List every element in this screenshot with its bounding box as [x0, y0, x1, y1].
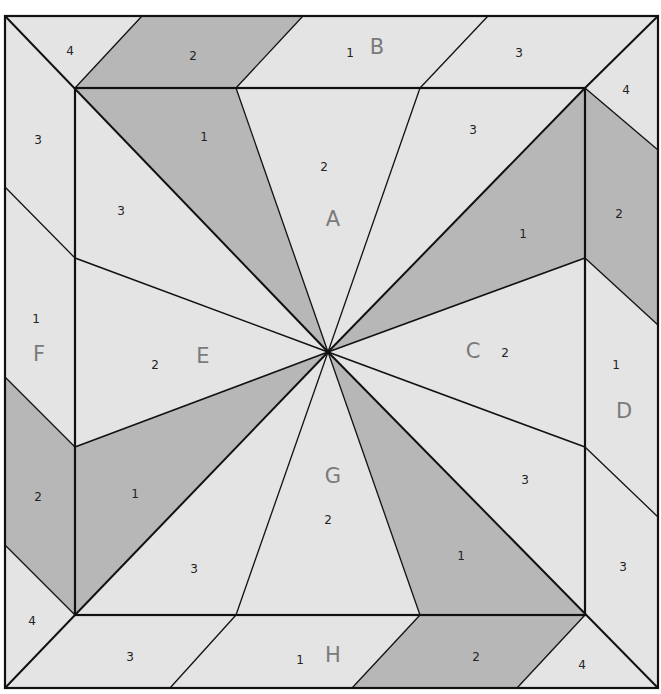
- piece-number-B1: 1: [346, 46, 354, 60]
- piece-number-G3: 3: [190, 562, 198, 576]
- piece-number-H2: 2: [472, 650, 480, 664]
- piece-number-B3: 3: [515, 46, 523, 60]
- piece-number-H3: 3: [126, 650, 134, 664]
- piece-number-E3: 3: [117, 204, 125, 218]
- piece-number-C1: 1: [519, 227, 527, 241]
- quilt-block-diagram: A B C D E F G H 1 2 3 1 2 3 4 1 2 3 1 2 …: [0, 0, 661, 694]
- section-label-B: B: [370, 35, 384, 59]
- piece-number-G2: 2: [324, 513, 332, 527]
- piece-number-G1: 1: [457, 549, 465, 563]
- piece-number-F1: 1: [32, 312, 40, 326]
- piece-number-F3: 3: [34, 133, 42, 147]
- piece-number-D1: 1: [612, 358, 620, 372]
- piece-number-D3: 3: [619, 560, 627, 574]
- piece-number-C3: 3: [521, 473, 529, 487]
- piece-number-H1: 1: [296, 653, 304, 667]
- piece-number-D2: 2: [615, 207, 623, 221]
- piece-number-A1: 1: [200, 130, 208, 144]
- piece-number-E2: 2: [151, 358, 159, 372]
- piece-number-A2: 2: [320, 160, 328, 174]
- section-label-F: F: [33, 342, 45, 366]
- section-label-E: E: [196, 344, 209, 368]
- section-label-D: D: [616, 399, 632, 423]
- piece-number-F2: 2: [34, 490, 42, 504]
- section-label-A: A: [326, 207, 341, 231]
- piece-number-F4: 4: [28, 614, 36, 628]
- piece-number-A3: 3: [469, 123, 477, 137]
- piece-number-D4: 4: [622, 83, 630, 97]
- piece-number-B2: 2: [189, 49, 197, 63]
- section-label-G: G: [325, 464, 341, 488]
- section-label-C: C: [466, 339, 481, 363]
- piece-number-H4: 4: [578, 658, 586, 672]
- piece-number-E1: 1: [131, 487, 139, 501]
- piece-number-B4: 4: [66, 44, 74, 58]
- section-label-H: H: [325, 643, 341, 667]
- piece-number-C2: 2: [501, 346, 509, 360]
